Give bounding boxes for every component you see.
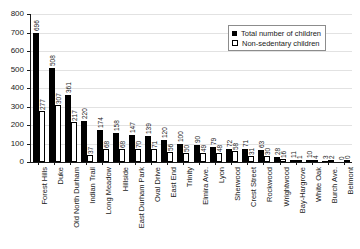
- bar-group: 15868: [113, 14, 125, 162]
- bar-nonsedentary: 48: [216, 153, 222, 162]
- bar-nonsedentary: 16: [280, 159, 286, 162]
- bar-group: 22037: [81, 14, 93, 162]
- x-category-label: Old North Durham: [73, 167, 81, 228]
- x-category-label: Oval Drive: [154, 167, 162, 202]
- x-tick: [247, 162, 248, 165]
- y-tick-label: 600: [0, 47, 24, 55]
- legend-label-nonsedentary: Non-sedentary children: [242, 39, 320, 48]
- bar-value-label: 31: [247, 148, 254, 155]
- bar-nonsedentary: 1: [296, 160, 302, 162]
- bar-value-label: 277: [38, 99, 45, 110]
- bar-group: 508307: [49, 14, 61, 162]
- bar-value-label: 68: [119, 141, 126, 148]
- bar-nonsedentary: 49: [200, 153, 206, 162]
- x-category-label: Rockwood: [266, 167, 274, 202]
- y-tick-label: 500: [0, 66, 24, 74]
- x-category-label: Crest Street: [250, 167, 258, 207]
- bar-nonsedentary: 31: [248, 156, 254, 162]
- bar-value-label: 2: [328, 155, 335, 159]
- x-tick: [54, 162, 55, 165]
- bar-nonsedentary: 2: [328, 160, 334, 162]
- bar-value-label: 56: [167, 143, 174, 150]
- x-category-label: Trinity: [186, 167, 194, 187]
- bar-value-label: 49: [199, 145, 206, 152]
- bar-nonsedentary: 0: [344, 160, 350, 162]
- bar-value-label: 4: [312, 155, 319, 159]
- legend-item-nonsedentary: Non-sedentary children: [232, 38, 321, 48]
- bar-value-label: 0: [344, 155, 351, 159]
- bar-value-label: 139: [145, 123, 152, 134]
- legend-label-total: Total number of children: [241, 29, 321, 38]
- x-category-label: Elmira Ave.: [202, 167, 210, 205]
- bar-value-label: 90: [193, 136, 200, 143]
- bar-value-label: 71: [151, 141, 158, 148]
- x-category-label: Burch Ave.: [331, 167, 339, 203]
- open-square-icon: [232, 40, 238, 46]
- bar-value-label: 70: [135, 141, 142, 148]
- bar-group: 9049: [194, 14, 206, 162]
- bar-nonsedentary: 37: [87, 155, 93, 162]
- x-tick: [296, 162, 297, 165]
- bar-nonsedentary: 277: [39, 111, 45, 162]
- bar-group: 17468: [97, 14, 109, 162]
- x-tick: [119, 162, 120, 165]
- y-tick-label: 300: [0, 103, 24, 111]
- bar-value-label: 220: [80, 108, 87, 119]
- x-category-label: Hillside: [122, 167, 130, 191]
- bar-group: 7948: [210, 14, 222, 162]
- bar-value-label: 120: [161, 127, 168, 138]
- bar-value-label: 58: [231, 143, 238, 150]
- bar-nonsedentary: 217: [71, 122, 77, 162]
- bar-value-label: 158: [113, 120, 120, 131]
- bar-group: 00: [338, 14, 350, 162]
- x-tick: [215, 162, 216, 165]
- x-category-label: White Oak: [315, 167, 323, 202]
- x-category-label: Lyon: [218, 167, 226, 183]
- bar-value-label: 1: [296, 155, 303, 159]
- bar-value-label: 50: [183, 145, 190, 152]
- x-category-label: Bay-Hargrove: [299, 167, 307, 213]
- bar-group: 10050: [177, 14, 189, 162]
- y-tick-label: 700: [0, 29, 24, 37]
- x-category-label: Belmont: [347, 167, 355, 195]
- bar-nonsedentary: 30: [264, 156, 270, 162]
- x-tick: [199, 162, 200, 165]
- x-tick: [38, 162, 39, 165]
- bar-nonsedentary: 71: [151, 149, 157, 162]
- bar-value-label: 147: [129, 122, 136, 133]
- bar-nonsedentary: 68: [119, 149, 125, 162]
- bar-value-label: 30: [264, 148, 271, 155]
- y-tick-label: 100: [0, 140, 24, 148]
- x-tick: [151, 162, 152, 165]
- x-tick: [280, 162, 281, 165]
- x-tick: [70, 162, 71, 165]
- x-category-label: Sherwood: [234, 167, 242, 201]
- y-tick-label: 400: [0, 84, 24, 92]
- y-tick-label: 200: [0, 121, 24, 129]
- x-tick: [344, 162, 345, 165]
- bar-value-label: 696: [32, 20, 39, 31]
- bar-value-label: 174: [97, 117, 104, 128]
- x-tick: [183, 162, 184, 165]
- bar-value-label: 48: [215, 145, 222, 152]
- y-tick-label: 0: [0, 158, 24, 166]
- x-tick: [312, 162, 313, 165]
- x-axis-line: [30, 162, 352, 163]
- bar-nonsedentary: 70: [135, 149, 141, 162]
- x-category-label: Indian Trail: [89, 167, 97, 204]
- x-tick: [167, 162, 168, 165]
- bar-group: 13971: [145, 14, 157, 162]
- bar-group: 361217: [65, 14, 77, 162]
- x-category-label: East Durham Park: [138, 167, 146, 228]
- filled-square-icon: [232, 31, 237, 36]
- bar-value-label: 71: [241, 140, 248, 147]
- bar-nonsedentary: 4: [312, 160, 318, 162]
- x-tick: [102, 162, 103, 165]
- chart-legend: Total number of children Non-sedentary c…: [228, 25, 326, 51]
- bar-nonsedentary: 50: [183, 153, 189, 162]
- bar-nonsedentary: 56: [167, 152, 173, 162]
- bar-value-label: 16: [280, 151, 287, 158]
- x-tick: [263, 162, 264, 165]
- x-tick: [86, 162, 87, 165]
- bar-value-label: 508: [48, 55, 55, 66]
